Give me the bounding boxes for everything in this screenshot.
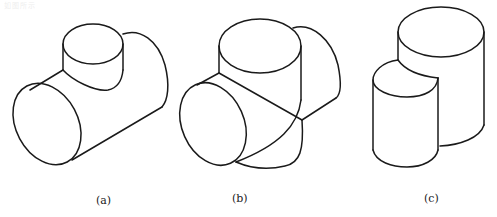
caption-c: (c) [424,192,439,205]
figure-c-drawing [0,0,497,217]
figure-c: (c) [0,0,497,217]
